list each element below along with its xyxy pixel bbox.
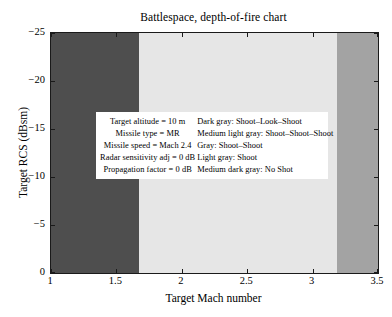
y-tick-mark [374,81,378,82]
y-tick-mark [374,272,378,273]
x-tick-mark [313,269,314,273]
x-tick-label: 1 [47,275,52,287]
y-tick-label: 0 [40,266,45,278]
y-tick-mark [51,272,55,273]
y-tick-mark [51,81,55,82]
legend-color-key-column: Dark gray: Shoot–Look–ShootMedium light … [195,116,333,176]
x-tick-mark [116,269,117,273]
legend-color-key-line: Medium dark gray: No Shot [197,164,333,176]
legend-annotation-box: Target altitude = 10 mMissile type = MRM… [96,112,328,179]
y-tick-mark [374,129,378,130]
legend-parameter-line: Missile speed = Mach 2.4 [100,140,195,152]
y-tick-label: −25 [29,26,45,38]
x-axis-label: Target Mach number [50,292,377,305]
legend-parameter-line: Propagation factor = 0 dB [100,164,195,176]
chart-title: Battlespace, depth-of-fire chart [50,11,377,24]
x-axis-tick-labels: 11.522.533.5 [50,275,377,289]
y-tick-label: −5 [34,218,45,230]
y-tick-mark [51,177,55,178]
legend-parameter-line: Target altitude = 10 m [100,116,195,128]
x-tick-mark [313,33,314,37]
y-tick-mark [51,225,55,226]
x-tick-label: 1.5 [109,275,122,287]
y-tick-label: −15 [29,122,45,134]
x-tick-label: 2 [178,275,183,287]
x-tick-mark [116,33,117,37]
x-tick-mark [247,33,248,37]
legend-color-key-line: Gray: Shoot–Shoot [197,140,333,152]
y-tick-label: −20 [29,74,45,86]
legend-parameter-line: Missile type = MR [100,128,195,140]
y-tick-mark [51,129,55,130]
x-tick-mark [182,269,183,273]
y-tick-mark [374,33,378,34]
legend-color-key-line: Light gray: Shoot [197,152,333,164]
y-tick-mark [51,33,55,34]
depth-of-fire-chart-figure: Battlespace, depth-of-fire chart −25−20−… [0,0,392,317]
y-tick-mark [374,225,378,226]
x-tick-label: 3 [309,275,314,287]
x-tick-mark [182,33,183,37]
legend-parameter-line: Radar sensitivity adj = 0 dB [100,152,195,164]
legend-color-key-line: Medium light gray: Shoot–Shoot–Shoot [197,128,333,140]
band-no-shot [337,33,378,273]
y-tick-label: −10 [29,170,45,182]
x-tick-label: 2.5 [240,275,253,287]
legend-parameter-column: Target altitude = 10 mMissile type = MRM… [96,116,195,176]
x-tick-mark [247,269,248,273]
x-tick-label: 3.5 [370,275,383,287]
y-tick-mark [374,177,378,178]
y-axis-label: Target RCS (dBsm) [17,73,30,233]
legend-color-key-line: Dark gray: Shoot–Look–Shoot [197,116,333,128]
